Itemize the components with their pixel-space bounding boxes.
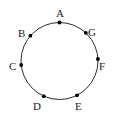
point-marker-c: [19, 63, 23, 67]
point-label-e: E: [75, 101, 82, 112]
point-label-d: D: [33, 101, 41, 112]
point-marker-d: [42, 94, 46, 98]
point-marker-e: [75, 93, 79, 97]
point-label-g: G: [88, 27, 96, 38]
point-label-a: A: [56, 8, 64, 19]
point-label-f: F: [99, 61, 105, 72]
circle-diagram: ABCDEFG: [0, 0, 116, 125]
point-marker-b: [29, 34, 33, 38]
point-label-b: B: [18, 28, 25, 39]
point-marker-a: [58, 21, 62, 25]
point-label-c: C: [9, 61, 16, 72]
